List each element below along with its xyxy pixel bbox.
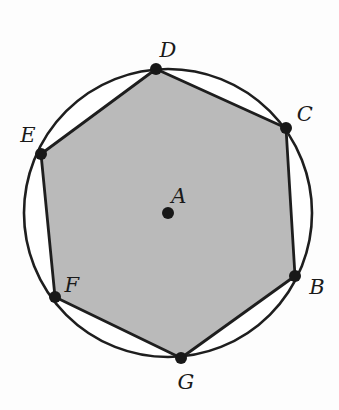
vertex-label-f: F (65, 275, 80, 296)
geometry-figure: A B C D E F G (0, 0, 339, 410)
vertex-label-a: A (171, 186, 186, 207)
vertex-label-e: E (20, 125, 36, 146)
vertex-label-c: C (297, 104, 313, 125)
paper-texture-overlay (0, 0, 339, 410)
vertex-label-d: D (159, 40, 176, 61)
geometry-canvas (0, 0, 339, 410)
vertex-label-b: B (309, 277, 325, 298)
vertex-label-g: G (178, 372, 195, 393)
